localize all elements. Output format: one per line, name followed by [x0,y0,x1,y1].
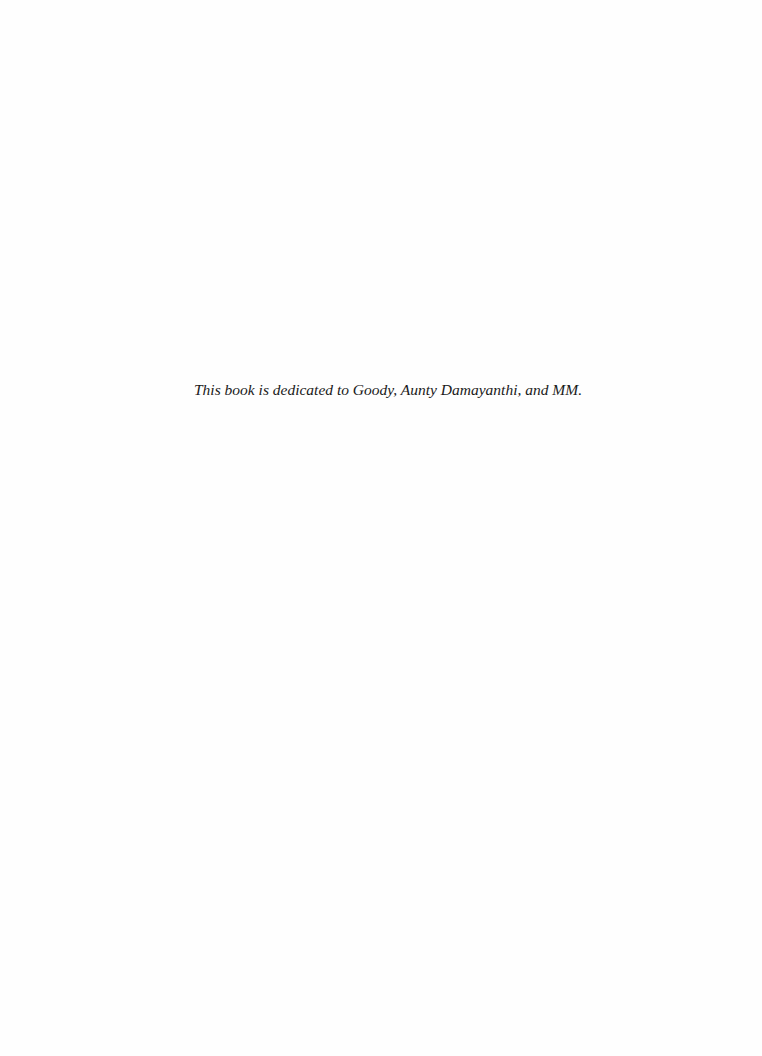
dedication-text: This book is dedicated to Goody, Aunty D… [0,380,762,400]
document-page: This book is dedicated to Goody, Aunty D… [0,0,762,1056]
